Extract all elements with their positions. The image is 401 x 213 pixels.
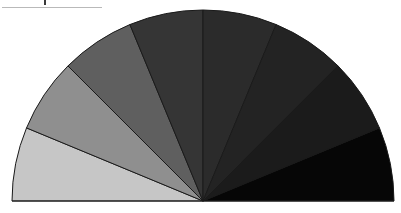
- pie-slices: [12, 10, 394, 201]
- semicircle-pie-chart: [0, 0, 401, 213]
